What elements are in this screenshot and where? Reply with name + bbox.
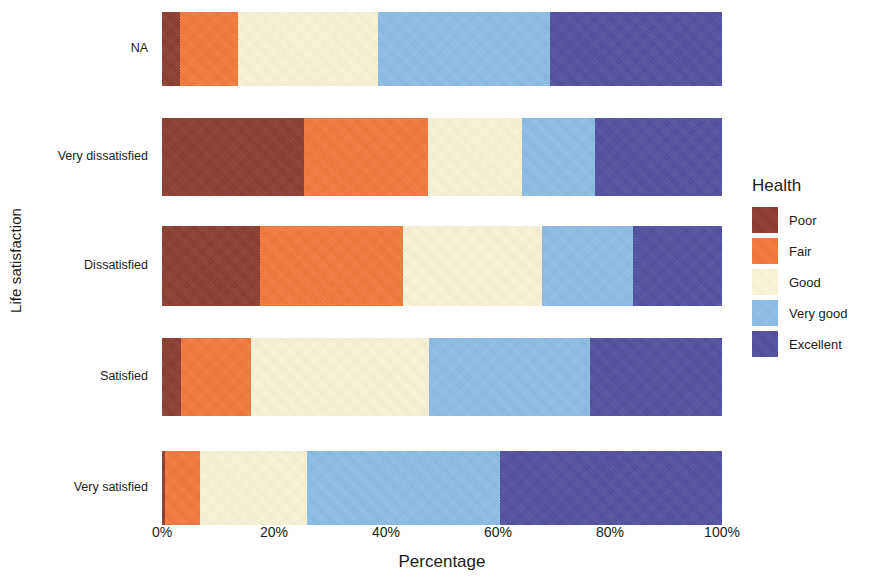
legend-item[interactable]: Good	[752, 268, 870, 296]
x-axis-title: Percentage	[162, 552, 722, 572]
bar-segment	[590, 338, 722, 416]
legend-swatch-icon	[752, 269, 778, 295]
bar-segment	[162, 338, 181, 416]
legend-items: PoorFairGoodVery goodExcellent	[752, 206, 870, 358]
bar-segment	[500, 451, 722, 525]
bar-segment	[428, 118, 522, 196]
legend-item[interactable]: Very good	[752, 299, 870, 327]
y-tick-label: Dissatisfied	[0, 258, 148, 272]
legend-title: Health	[752, 176, 870, 196]
bar-row	[162, 451, 722, 525]
x-tick-label: 80%	[596, 524, 624, 540]
y-tick-label: Very satisfied	[0, 480, 148, 494]
x-tick-labels: 0%20%40%60%80%100%	[162, 524, 722, 546]
bar-segment	[304, 118, 428, 196]
legend-label: Very good	[789, 306, 848, 321]
legend: Health PoorFairGoodVery goodExcellent	[752, 176, 870, 361]
x-tick-label: 100%	[704, 524, 740, 540]
bar-segment	[403, 226, 542, 306]
bar-segment	[181, 338, 251, 416]
bar-segment	[162, 118, 304, 196]
bar-segment	[162, 12, 180, 86]
x-tick-label: 40%	[372, 524, 400, 540]
bar-row	[162, 12, 722, 86]
bar-segment	[542, 226, 633, 306]
bar-segment	[595, 118, 722, 196]
bar-segment	[550, 12, 722, 86]
legend-label: Poor	[789, 213, 816, 228]
y-tick-label: Satisfied	[0, 369, 148, 383]
legend-swatch-icon	[752, 238, 778, 264]
legend-label: Excellent	[789, 337, 842, 352]
bar-row	[162, 118, 722, 196]
bar-segment	[260, 226, 403, 306]
legend-item[interactable]: Poor	[752, 206, 870, 234]
bar-segment	[378, 12, 550, 86]
bar-segment	[633, 226, 722, 306]
legend-swatch-icon	[752, 207, 778, 233]
bar-segment	[200, 451, 307, 525]
bar-segment	[165, 451, 200, 525]
x-tick-label: 20%	[260, 524, 288, 540]
legend-label: Good	[789, 275, 821, 290]
bar-segment	[180, 12, 238, 86]
bar-row	[162, 226, 722, 306]
bar-segment	[522, 118, 595, 196]
x-tick-label: 0%	[152, 524, 172, 540]
legend-label: Fair	[789, 244, 811, 259]
plot-area	[162, 8, 722, 520]
legend-swatch-icon	[752, 331, 778, 357]
bar-segment	[162, 226, 260, 306]
bar-segment	[307, 451, 500, 525]
legend-swatch-icon	[752, 300, 778, 326]
bar-segment	[429, 338, 590, 416]
stacked-bar-chart-figure: Life satisfaction NAVery dissatisfiedDis…	[0, 0, 872, 582]
bar-row	[162, 338, 722, 416]
bar-segment	[238, 12, 378, 86]
legend-item[interactable]: Excellent	[752, 330, 870, 358]
y-tick-label: Very dissatisfied	[0, 149, 148, 163]
legend-item[interactable]: Fair	[752, 237, 870, 265]
x-tick-label: 60%	[484, 524, 512, 540]
bar-segment	[251, 338, 429, 416]
y-tick-label: NA	[0, 41, 148, 55]
